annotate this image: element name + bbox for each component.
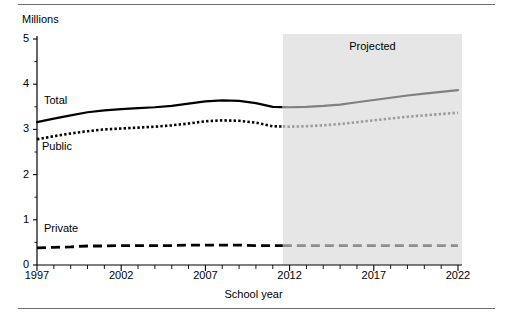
x-tick-label: 2012 xyxy=(270,270,310,281)
x-tick-label: 2017 xyxy=(354,270,394,281)
y-tick-label: 3 xyxy=(15,123,29,134)
x-tick-label: 2007 xyxy=(185,270,225,281)
y-tick-label: 2 xyxy=(15,169,29,180)
x-axis-ticks xyxy=(37,265,458,271)
figure-container: Projected Millions School year 012345 19… xyxy=(0,0,507,317)
y-tick-label: 5 xyxy=(15,33,29,44)
series-label-public: Public xyxy=(42,140,72,152)
series-line-private-observed xyxy=(37,245,283,248)
chart-plot-area xyxy=(0,0,507,317)
series-line-public-observed xyxy=(37,120,283,139)
x-tick-label: 1997 xyxy=(17,270,57,281)
x-tick-label: 2022 xyxy=(438,270,478,281)
y-tick-label: 4 xyxy=(15,78,29,89)
series-lines xyxy=(37,90,458,248)
x-tick-label: 2002 xyxy=(101,270,141,281)
series-line-total-projected xyxy=(283,90,458,107)
axes-group xyxy=(37,36,462,265)
series-line-total-observed xyxy=(37,100,283,122)
y-tick-label: 1 xyxy=(15,214,29,225)
series-label-private: Private xyxy=(44,222,78,234)
series-label-total: Total xyxy=(44,94,67,106)
series-line-public-projected xyxy=(283,113,458,127)
